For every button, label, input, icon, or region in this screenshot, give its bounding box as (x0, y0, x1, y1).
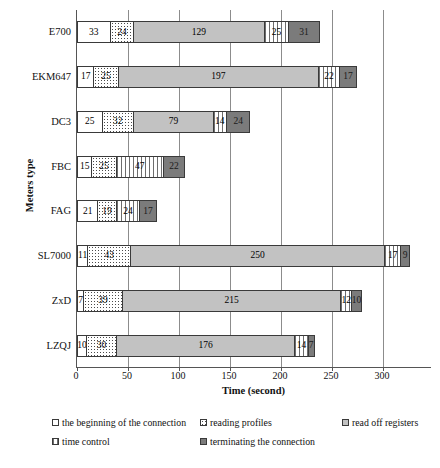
bar-segment[interactable]: 9 (400, 245, 409, 267)
legend-swatch-icon (342, 419, 349, 426)
bar-segment-value: 17 (143, 207, 153, 217)
y-axis-category-label: FAG (4, 205, 76, 216)
legend-item[interactable]: the beginning of the connection (52, 418, 186, 428)
bar-segment-value: 31 (299, 28, 309, 38)
bar-segment-value: 19 (102, 207, 112, 217)
bar-segment[interactable]: 25 (264, 21, 290, 43)
x-axis-tick-labels: 050100150200250300 (76, 370, 431, 384)
y-axis-category-label: LZQJ (4, 340, 76, 351)
bar-segment[interactable]: 22 (318, 66, 340, 88)
bar-segment-value: 14 (215, 117, 225, 127)
bar-segment-value: 24 (233, 117, 243, 127)
bar-segment[interactable]: 22 (163, 156, 185, 178)
x-axis-tick-label: 150 (222, 370, 237, 381)
legend-label: time control (62, 437, 110, 447)
bar-segment[interactable]: 7 (308, 335, 315, 357)
chart-root: Meters type E700EKM647DC3FBCFAGSL7000ZxD… (0, 0, 440, 468)
y-axis-category-labels: E700EKM647DC3FBCFAGSL7000ZxDLZQJ (0, 10, 76, 368)
bar-rows: 3324129253117251972217253279142415254722… (77, 10, 431, 367)
bar-segment[interactable]: 43 (87, 245, 131, 267)
bar-segment-value: 11 (78, 251, 87, 261)
bar-segment[interactable]: 31 (288, 21, 320, 43)
bar-segment-value: 250 (250, 251, 264, 261)
bar-segment[interactable]: 129 (133, 21, 265, 43)
bar-segment[interactable]: 12 (340, 290, 352, 312)
bar-segment[interactable]: 17 (77, 66, 94, 88)
bar-segment[interactable]: 197 (118, 66, 319, 88)
bar-segment[interactable]: 25 (91, 156, 117, 178)
bar-segment[interactable]: 24 (110, 21, 134, 43)
bar-segment[interactable]: 250 (130, 245, 385, 267)
bar-segment[interactable]: 79 (133, 111, 214, 133)
bar-segment[interactable]: 215 (122, 290, 341, 312)
bar-segment-value: 25 (85, 117, 95, 127)
bar-segment-value: 24 (117, 28, 127, 38)
bar-row: 2532791424 (77, 111, 250, 133)
bar-segment[interactable]: 21 (77, 200, 98, 222)
bar-segment[interactable]: 25 (77, 111, 103, 133)
bar-row: 17251972217 (77, 66, 357, 88)
bar-segment[interactable]: 17 (339, 66, 356, 88)
bar-segment-value: 14 (297, 341, 307, 351)
legend-swatch-icon (52, 438, 59, 445)
bar-segment[interactable]: 24 (226, 111, 250, 133)
legend-label: reading profiles (210, 418, 272, 428)
x-axis-title: Time (second) (76, 385, 431, 396)
legend-item[interactable]: reading profiles (200, 418, 272, 428)
bar-segment[interactable]: 47 (116, 156, 164, 178)
bar-segment[interactable]: 19 (97, 200, 116, 222)
bar-segment[interactable]: 176 (116, 335, 296, 357)
bar-segment-value: 129 (192, 28, 206, 38)
y-axis-category-label: E700 (4, 26, 76, 37)
bar-segment[interactable]: 32 (102, 111, 135, 133)
bar-segment[interactable]: 10 (351, 290, 361, 312)
legend-swatch-icon (52, 419, 59, 426)
bar-segment-value: 17 (388, 251, 398, 261)
legend-item[interactable]: terminating the connection (200, 437, 315, 447)
bar-segment[interactable]: 17 (139, 200, 156, 222)
bar-segment[interactable]: 14 (294, 335, 308, 357)
x-axis-tick-label: 250 (324, 370, 339, 381)
x-axis-tick-label: 200 (273, 370, 288, 381)
bar-segment-value: 43 (104, 251, 114, 261)
bar-segment-value: 12 (342, 296, 352, 306)
y-axis-category-label: ZxD (4, 295, 76, 306)
bar-segment[interactable]: 15 (77, 156, 92, 178)
bar-row: 15254722 (77, 156, 185, 178)
bar-segment[interactable]: 33 (77, 21, 111, 43)
bar-segment[interactable]: 17 (384, 245, 401, 267)
plot-area: 3324129253117251972217253279142415254722… (76, 10, 431, 368)
y-axis-category-label: DC3 (4, 116, 76, 127)
legend-item[interactable]: time control (52, 437, 110, 447)
bar-segment-value: 25 (99, 162, 109, 172)
bar-row: 21192417 (77, 200, 157, 222)
x-axis-tick-label: 0 (74, 370, 79, 381)
bar-segment[interactable]: 14 (213, 111, 227, 133)
x-axis-tick-label: 300 (375, 370, 390, 381)
legend-label: terminating the connection (210, 437, 315, 447)
bar-segment-value: 33 (89, 28, 99, 38)
legend-item[interactable]: read off registers (342, 418, 418, 428)
bar-segment-value: 25 (101, 72, 111, 82)
bar-segment-value: 7 (78, 296, 83, 306)
x-axis-tick-label: 100 (171, 370, 186, 381)
bar-segment[interactable]: 30 (86, 335, 117, 357)
chart-legend: the beginning of the connectionreading p… (52, 418, 432, 460)
bar-row: 33241292531 (77, 21, 320, 43)
bar-segment-value: 25 (272, 28, 282, 38)
bar-segment-value: 7 (309, 341, 314, 351)
y-axis-category-label: SL7000 (4, 250, 76, 261)
bar-segment-value: 30 (97, 341, 107, 351)
bar-segment-value: 47 (135, 162, 145, 172)
bar-segment-value: 22 (324, 72, 334, 82)
bar-segment-value: 17 (81, 72, 91, 82)
bar-segment-value: 15 (80, 162, 90, 172)
bar-segment[interactable]: 39 (83, 290, 123, 312)
bar-segment[interactable]: 24 (116, 200, 140, 222)
bar-row: 1030176147 (77, 335, 315, 357)
bar-segment-value: 17 (343, 72, 353, 82)
bar-segment[interactable]: 25 (93, 66, 119, 88)
bar-segment-value: 32 (113, 117, 123, 127)
y-axis-category-label: FBC (4, 161, 76, 172)
bar-segment-value: 215 (224, 296, 238, 306)
